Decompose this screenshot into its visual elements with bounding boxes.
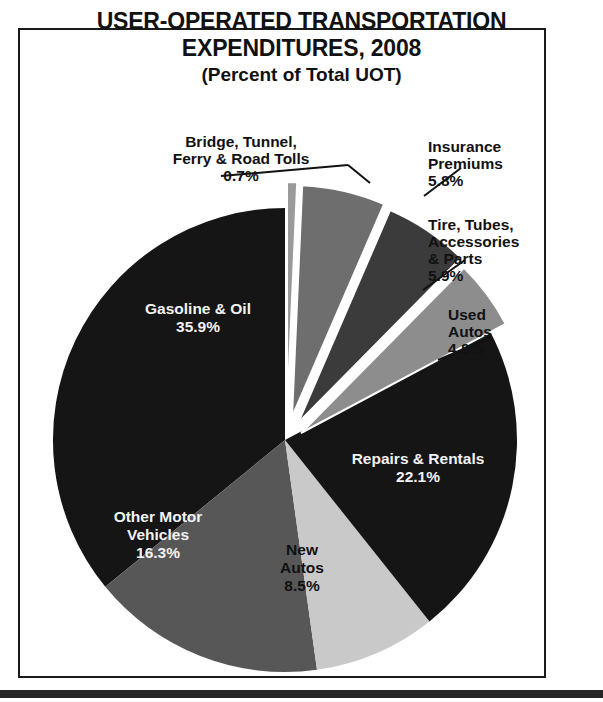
slice-label-gasoline-oil: Gasoline & Oil 35.9% (108, 300, 288, 336)
callout-bridge-line1: Bridge, Tunnel, (185, 133, 297, 150)
callout-tire-value: 5.9% (428, 267, 558, 284)
slice-label-new-autos: New Autos 8.5% (248, 541, 356, 595)
callout-insurance-premiums: Insurance Premiums 5.8% (428, 138, 546, 189)
callout-tire-line1: Tire, Tubes, (428, 216, 514, 233)
callout-insurance-value: 5.8% (428, 172, 546, 189)
slice-label-other-line1: Other Motor (114, 508, 203, 525)
callout-used-line2: Autos (448, 323, 492, 340)
callout-used-value: 4.8% (448, 340, 558, 357)
callout-bridge-value: 0.7% (148, 167, 334, 184)
slice-label-other-value: 16.3% (136, 544, 180, 561)
slice-label-repairs-text: Repairs & Rentals (352, 450, 485, 467)
callout-used-line1: Used (448, 306, 486, 323)
callout-used-autos: Used Autos 4.8% (448, 306, 558, 357)
slice-label-repairs-rentals: Repairs & Rentals 22.1% (318, 450, 518, 486)
leader-line-bridge-2 (348, 165, 370, 183)
slice-label-gasoline-text: Gasoline & Oil (145, 300, 251, 317)
slice-label-new-line2: Autos (280, 559, 324, 576)
callout-tire-line3: & Parts (428, 250, 482, 267)
callout-bridge-line2: Ferry & Road Tolls (173, 150, 310, 167)
slice-label-gasoline-value: 35.9% (176, 318, 220, 335)
slice-label-new-line1: New (286, 541, 318, 558)
callout-bridge-tunnel-ferry-road-tolls: Bridge, Tunnel, Ferry & Road Tolls 0.7% (148, 133, 334, 184)
callout-tire-tubes-accessories-parts: Tire, Tubes, Accessories & Parts 5.9% (428, 216, 558, 284)
slice-label-new-value: 8.5% (284, 577, 319, 594)
footer-rule-bar (0, 690, 603, 698)
slice-label-repairs-value: 22.1% (396, 468, 440, 485)
callout-insurance-line1: Insurance (428, 138, 501, 155)
callout-tire-line2: Accessories (428, 233, 519, 250)
slice-label-other-line2: Vehicles (127, 526, 189, 543)
chart-page: USER-OPERATED TRANSPORTATION EXPENDITURE… (0, 0, 603, 702)
callout-insurance-line2: Premiums (428, 155, 503, 172)
slice-label-other-motor-vehicles: Other Motor Vehicles 16.3% (58, 508, 258, 562)
